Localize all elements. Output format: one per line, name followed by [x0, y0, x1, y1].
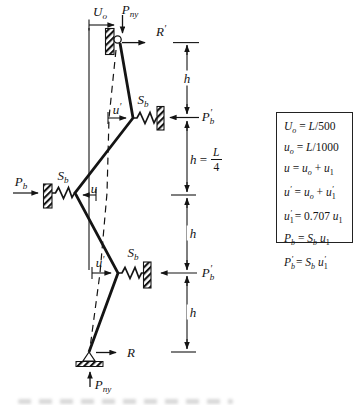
equation: Pb′ = Sb u1′: [284, 251, 352, 275]
equation: Pb = Sb u1: [284, 230, 352, 251]
equation: u′ = uo + u1′: [284, 181, 352, 205]
base-pin-support: [76, 352, 103, 367]
initial-shape-dashed-line: [90, 50, 116, 348]
brace-force-label-lower: Pb′: [202, 264, 212, 282]
equations-list: Uo = L/500uo = L/1000u = uo + u1u′ = uo …: [284, 118, 352, 275]
axial-load-label-base: Pny: [95, 378, 112, 394]
dimension-label-h-L4: h = L 4: [190, 146, 222, 173]
brace-force-label-mid: Pb: [15, 175, 28, 191]
brace-stiffness-label-lower: Sb: [127, 246, 138, 262]
dimension-label-h1: h: [181, 71, 194, 86]
mid-brace-spring: [44, 184, 76, 208]
top-roller-support: [106, 29, 122, 55]
equation: Uo = L/500: [284, 118, 352, 139]
reaction-label-base: R: [127, 346, 135, 359]
displacement-label-upper: u′: [113, 102, 122, 117]
brace-stiffness-label-mid: Sb: [57, 169, 68, 185]
brace-force-label-upper: Pb′: [202, 108, 212, 126]
figure-canvas: Uo Pny R′ h Sb u′ Pb′ h = L 4 Sb u Pb h …: [0, 0, 357, 405]
reaction-label-top: R′: [156, 24, 166, 39]
equation-legend-box: Uo = L/500uo = L/1000u = uo + u1u′ = uo …: [276, 112, 353, 243]
equation: u = uo + u1: [284, 160, 352, 181]
h-equals: h =: [190, 152, 207, 168]
equation: uo = L/1000: [284, 139, 352, 160]
dimension-label-h4: h: [187, 305, 200, 320]
initial-sway-label: Uo: [93, 5, 107, 21]
dimension-label-h3: h: [187, 226, 200, 241]
equation: u1′ = 0.707 u1: [284, 205, 352, 229]
displacement-label-mid: u: [91, 182, 98, 195]
displacement-label-lower: u′: [96, 255, 105, 270]
column-buckled-shape: [75, 43, 133, 352]
brace-stiffness-label-upper: Sb: [137, 93, 148, 109]
cropped-caption-remnant: [18, 399, 233, 404]
lower-brace-spring: [119, 262, 151, 288]
axial-load-label-top: Pny: [122, 3, 139, 19]
L-over-4-fraction: L 4: [211, 146, 221, 173]
upper-brace-spring: [134, 107, 164, 131]
